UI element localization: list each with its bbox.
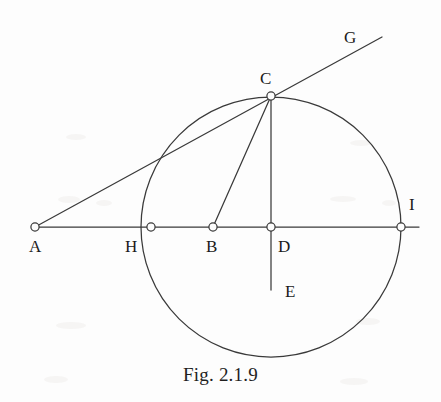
point-marker-h [147, 223, 155, 231]
point-label-d: D [278, 238, 290, 255]
point-label-i: I [409, 196, 415, 213]
point-label-c: C [260, 70, 271, 87]
point-marker-i [397, 223, 405, 231]
point-marker-b [209, 223, 217, 231]
point-label-b: B [206, 238, 217, 255]
point-marker-d [267, 223, 275, 231]
ray-a-c-g-segment [35, 37, 382, 227]
point-label-e: E [285, 283, 295, 300]
point-label-a: A [29, 238, 41, 255]
figure-container: A H B D I C E G Fig. 2.1.9 [0, 0, 441, 402]
geometry-drawing [0, 0, 441, 402]
point-marker-a [31, 223, 39, 231]
point-label-h: H [125, 238, 137, 255]
point-marker-c [267, 92, 275, 100]
point-label-g: G [344, 29, 356, 46]
chord-c-b-segment [213, 96, 271, 227]
figure-caption: Fig. 2.1.9 [0, 364, 441, 386]
